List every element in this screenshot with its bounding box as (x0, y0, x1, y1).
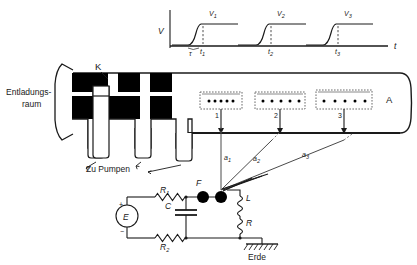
trajectory-a2-dash (272, 133, 279, 140)
polarity-plus-label: + (119, 201, 123, 208)
stage-1-number: 1 (215, 112, 219, 119)
resistor-r2-label: R2 (160, 242, 169, 253)
capacitor-label: C (165, 201, 172, 211)
stage-2-number: 2 (274, 112, 278, 119)
spark-gap-electrode-left (197, 191, 209, 203)
acceleration-stages-group: 1 2 3 (200, 90, 372, 134)
trajectories-group: a1 a2 a3 (221, 126, 352, 190)
tube-right-cap (400, 73, 412, 133)
ground-hatching (244, 244, 278, 250)
pump-tube-3 (176, 133, 192, 161)
waveform-x-axis-label: t (394, 41, 397, 51)
pulse-3-amplitude-label: V3 (344, 10, 353, 19)
anode-label: A (386, 94, 393, 105)
resistor-r-coil (238, 219, 243, 234)
electrode-block-3b (150, 96, 172, 119)
electrode-block-3a (150, 73, 172, 92)
discharge-chamber-label-line1: Entladungs- (6, 87, 52, 97)
pulse-2-rise (238, 24, 275, 45)
trigger-lead-3 (222, 174, 268, 189)
trajectory-a3-dash (344, 134, 352, 140)
source-label: E (123, 212, 129, 222)
stage-1: 1 (200, 92, 242, 133)
trajectory-a3 (221, 140, 344, 190)
resistor-r2-zigzag (155, 235, 185, 242)
chamber-group: Entladungs- raum K A Zu Pumpen (6, 61, 412, 174)
pulse-1-rise (172, 24, 207, 45)
waveform-group: V t V1 t1 τ V2 t2 V3 t3 (158, 10, 397, 57)
waveform-y-axis-label: V (158, 26, 165, 36)
stage-3-number: 3 (338, 112, 342, 119)
spark-gap-electrode-right (215, 191, 227, 203)
polarity-minus-label: − (120, 228, 124, 235)
apparatus-diagram: V t V1 t1 τ V2 t2 V3 t3 (0, 0, 417, 265)
pulse-2-amplitude-label: V2 (277, 10, 285, 19)
trajectory-a2-label: a2 (253, 155, 260, 164)
cathode-label: K (95, 61, 102, 72)
trajectory-a3-label: a3 (302, 151, 310, 160)
ground-label: Erde (248, 252, 266, 262)
pump-tube-2 (135, 128, 151, 158)
cathode-stem-head (93, 86, 109, 96)
discharge-horn (55, 64, 73, 140)
pulse-2-time-label: t2 (268, 48, 273, 57)
stage-2: 2 (255, 92, 305, 133)
resistor-r1-label: R1 (160, 185, 169, 196)
electrode-block-2b (108, 96, 140, 119)
stage-3: 3 (316, 90, 372, 133)
pulse-3-time-label: t3 (335, 48, 341, 57)
pulse-1-amplitude-label: V1 (209, 10, 217, 19)
cathode-stem (93, 86, 109, 158)
trajectory-a2 (221, 140, 272, 190)
circuit-junctions (184, 195, 241, 239)
electrode-block-2a (118, 73, 140, 92)
resistor-r-label: R (246, 218, 252, 228)
wire-inductor-top (227, 190, 240, 196)
diagram-root: V t V1 t1 τ V2 t2 V3 t3 (0, 0, 417, 265)
spark-gap-label: F (196, 178, 202, 188)
inductor-label: L (246, 193, 251, 203)
discharge-chamber-label-line2: raum (22, 99, 41, 109)
inductor-coil (238, 196, 243, 216)
trajectory-a1-label: a1 (224, 154, 231, 163)
pulse-1-time-label: t1 (200, 48, 205, 57)
pulse-3-rise (306, 24, 342, 45)
stage-3-box (316, 90, 372, 109)
rise-time-label: τ (189, 50, 192, 57)
pumps-label: Zu Pumpen (86, 164, 130, 174)
